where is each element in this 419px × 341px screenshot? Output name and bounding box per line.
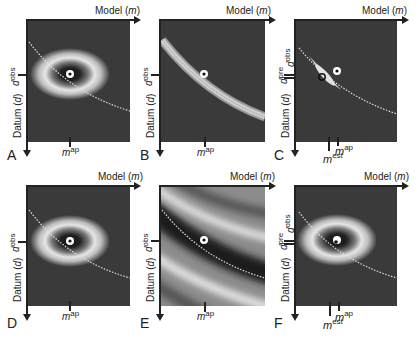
m-est-tick [329,302,331,316]
posterior-graphic [295,20,397,142]
datum-axis-arrow [294,19,296,151]
model-axis-arrow [27,19,135,21]
m-ap-label: map [62,145,79,158]
model-axis-arrow [295,19,403,21]
datum-axis-label: Datum (d) [145,94,156,138]
m-ap-label: map [62,309,79,322]
model-axis-arrow [160,19,270,21]
model-axis-label: Model (m) [230,171,275,182]
d-obs-label: dobs [8,234,21,252]
d-obs-label: dobs [283,49,296,67]
panel-letter-a: A [7,147,16,163]
plot-area-c [295,20,397,142]
d-obs-label: dobs [141,234,154,252]
panel-letter-f: F [274,315,283,331]
d-obs-label: dobs [283,215,296,233]
d-obs-label: dobs [8,68,21,86]
m-est-label: mest [323,151,343,165]
plot-area-e [160,186,265,306]
model-axis-arrow [295,185,403,187]
m-ap-label: map [197,145,214,158]
model-axis-arrow [160,185,270,187]
panel-letter-e: E [140,315,149,331]
posterior-wide-graphic [295,186,397,306]
d-pre-label: dpre [276,233,289,250]
datum-axis-arrow [159,185,161,315]
joint-gaussian-graphic [27,20,130,142]
datum-axis-label: Datum (d) [280,94,291,138]
datum-axis-label: Datum (d) [145,258,156,302]
datum-axis-arrow [159,19,161,151]
m-est-label: mest [323,317,343,331]
model-axis-label: Model (m) [98,171,143,182]
model-axis-label: Model (m) [362,5,407,16]
datum-axis-label: Datum (d) [280,258,291,302]
panel-letter-c: C [274,147,284,163]
d-pre-label: dpre [276,67,289,84]
plot-area-a [27,20,130,142]
model-axis-label: Model (m) [95,5,140,16]
d-obs-label: dobs [141,68,154,86]
datum-axis-arrow [26,19,28,151]
datum-axis-arrow [294,185,296,315]
likelihood-band-graphic [160,20,265,142]
datum-axis-label: Datum (d) [12,258,23,302]
panel-letter-b: B [140,147,149,163]
model-axis-label: Model (m) [226,5,271,16]
plot-area-b [160,20,265,142]
model-axis-arrow [27,185,135,187]
plot-area-d [27,186,130,306]
joint-gaussian-graphic [27,186,130,306]
datum-axis-arrow [26,185,28,315]
model-axis-label: Model (m) [364,171,409,182]
datum-axis-label: Datum (d) [12,94,23,138]
m-ap-label: map [197,309,214,322]
panel-letter-d: D [7,315,17,331]
m-est-tick [328,137,330,151]
plot-area-f [295,186,397,306]
wide-band-graphic [160,186,265,306]
